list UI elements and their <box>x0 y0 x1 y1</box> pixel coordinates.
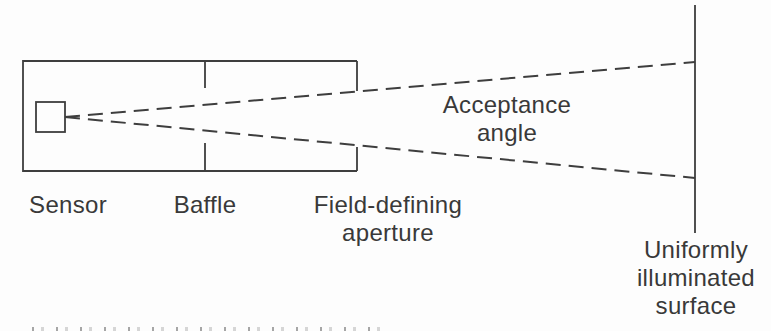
baffle-label: Baffle <box>174 191 237 219</box>
surface-label-line1: Uniformly <box>637 236 755 264</box>
acceptance-ray-upper <box>65 62 695 117</box>
acceptance-label-line1: Acceptance <box>443 91 571 119</box>
aperture-label-line1: Field-defining <box>314 191 462 219</box>
surface-label-line2: illuminated <box>637 264 755 292</box>
field-defining-aperture-label: Field-defining aperture <box>314 191 462 247</box>
baffle-label-text: Baffle <box>174 191 237 219</box>
acceptance-ray-lower <box>65 117 695 178</box>
cutoff-caption-fragment <box>32 327 390 331</box>
uniformly-illuminated-surface-label: Uniformly illuminated surface <box>637 236 755 320</box>
acceptance-label-line2: angle <box>443 119 571 147</box>
aperture-label-line2: aperture <box>314 219 462 247</box>
sensor-square <box>36 102 65 132</box>
sensor-label-text: Sensor <box>29 191 107 219</box>
surface-label-line3: surface <box>637 292 755 320</box>
acceptance-angle-label: Acceptance angle <box>443 91 571 147</box>
sensor-label: Sensor <box>29 191 107 219</box>
